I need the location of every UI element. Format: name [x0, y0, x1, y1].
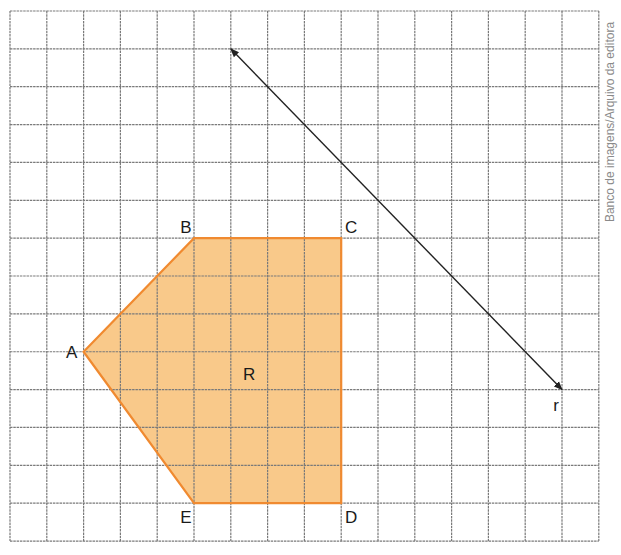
polygon-region-fill: [84, 238, 342, 503]
vertex-label-c: C: [345, 218, 357, 237]
vertex-label-a: A: [66, 343, 78, 362]
vertex-label-d: D: [345, 508, 357, 527]
region-r-fill: [84, 238, 342, 503]
region-label-r: R: [243, 365, 255, 384]
vertex-label-e: E: [180, 508, 191, 527]
geometry-grid-diagram: ABCDERr: [0, 0, 600, 555]
square-grid: [10, 11, 599, 541]
image-credit: Banco de imagens/Arquivo da editora: [603, 22, 617, 222]
line-label-r: r: [553, 396, 559, 415]
vertex-label-b: B: [180, 218, 191, 237]
